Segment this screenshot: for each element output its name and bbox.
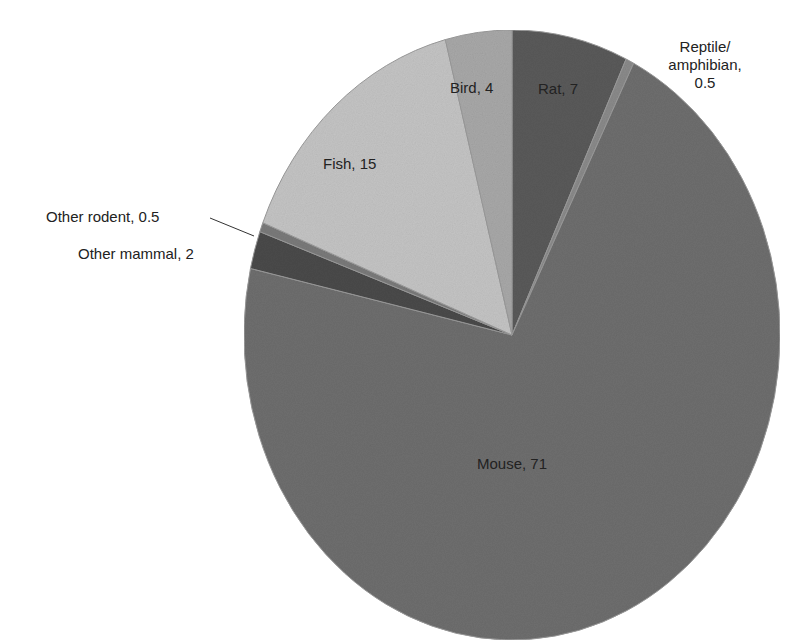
pie-chart: [0, 0, 811, 641]
label-reptile-line1: Reptile/: [650, 38, 760, 56]
label-bird: Bird, 4: [450, 79, 493, 97]
label-mouse: Mouse, 71: [477, 455, 547, 473]
label-other-mammal: Other mammal, 2: [78, 245, 194, 263]
label-reptile-amphibian: Reptile/ amphibian, 0.5: [650, 38, 760, 92]
label-reptile-line2: amphibian,: [650, 56, 760, 74]
label-other-rodent: Other rodent, 0.5: [46, 208, 159, 226]
label-reptile-line3: 0.5: [650, 74, 760, 92]
leader-line-other-rodent: [210, 218, 254, 236]
label-fish: Fish, 15: [323, 155, 376, 173]
label-rat: Rat, 7: [538, 80, 578, 98]
